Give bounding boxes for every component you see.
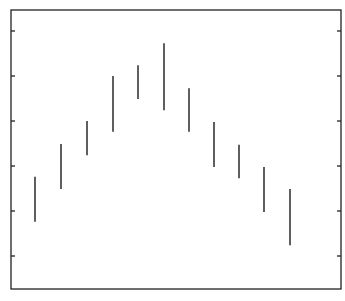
range-bar-chart bbox=[0, 0, 345, 301]
range-bars bbox=[35, 43, 290, 245]
